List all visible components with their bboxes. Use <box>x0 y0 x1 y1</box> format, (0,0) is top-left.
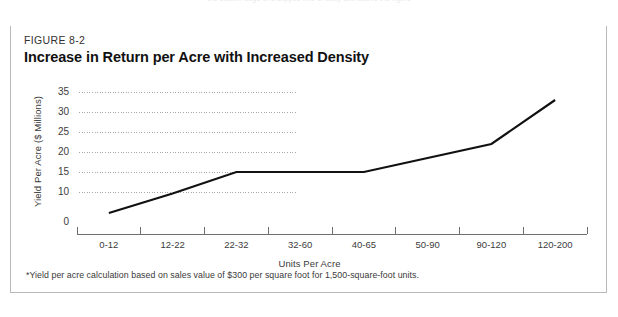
x-axis-title: Units Per Acre <box>11 258 608 269</box>
clipped-body-text: the bottom edge of a clipped line of bod… <box>0 0 618 8</box>
x-axis-tick-label: 22-32 <box>205 239 269 250</box>
y-axis-tick-label: 25 <box>43 127 69 137</box>
y-axis-tick-label: 10 <box>43 187 69 197</box>
y-axis-tick-label: 35 <box>43 87 69 97</box>
figure-footnote: *Yield per acre calculation based on sal… <box>26 269 586 281</box>
clipped-body-text-content: the bottom edge of a clipped line of bod… <box>207 0 411 3</box>
figure-container: FIGURE 8-2 Increase in Return per Acre w… <box>10 26 607 293</box>
x-axis-tick-label: 40-65 <box>332 239 396 250</box>
y-axis-tick-label: 30 <box>43 107 69 117</box>
figure-page: the bottom edge of a clipped line of bod… <box>0 0 618 317</box>
y-axis-tick-label: 15 <box>43 167 69 177</box>
x-axis-tick-label: 50-90 <box>396 239 460 250</box>
line-chart: Yield Per Acre ($ Millions) Units Per Ac… <box>11 26 608 293</box>
x-axis-tick-label: 32-60 <box>268 239 332 250</box>
x-axis-tick-label: 90-120 <box>460 239 524 250</box>
x-axis-tick-label: 120-200 <box>523 239 587 250</box>
x-axis-tick-label: 12-22 <box>141 239 205 250</box>
y-axis-tick-label: 20 <box>43 147 69 157</box>
chart-canvas <box>11 26 608 293</box>
y-axis-tick-label: 0 <box>43 217 69 227</box>
x-axis-tick-label: 0-12 <box>77 239 141 250</box>
